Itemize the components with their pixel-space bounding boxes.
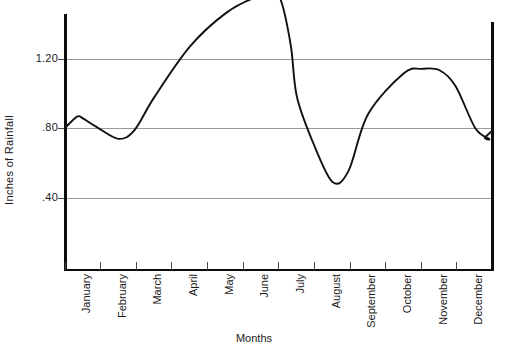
x-axis-title: Months bbox=[0, 332, 508, 344]
rainfall-curve bbox=[65, 0, 493, 184]
rainfall-line-chart: Inches of Rainfall 1.20 .80 .40 January … bbox=[0, 0, 508, 354]
chart-plot-area bbox=[0, 0, 508, 354]
